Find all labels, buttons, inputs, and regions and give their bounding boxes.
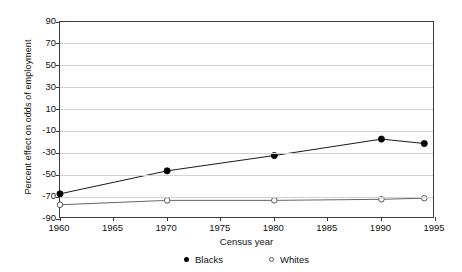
y-tick-mark — [56, 22, 60, 23]
gridline — [60, 153, 433, 154]
x-tick-mark — [60, 217, 61, 221]
data-series-layer — [60, 22, 435, 219]
gridline — [60, 87, 433, 88]
series-line-blacks — [60, 139, 424, 194]
x-tick-label: 1975 — [200, 222, 240, 233]
y-tick-mark — [56, 197, 60, 198]
x-tick-mark — [113, 217, 114, 221]
chart-legend: Blacks Whites — [59, 252, 434, 266]
x-axis-title: Census year — [59, 236, 434, 247]
data-point-blacks — [378, 136, 384, 142]
y-tick-mark — [56, 65, 60, 66]
y-tick-mark — [56, 131, 60, 132]
open-circle-icon — [269, 257, 274, 262]
gridline — [60, 197, 433, 198]
y-tick-label: 50 — [34, 60, 56, 70]
data-point-whites — [271, 198, 277, 204]
y-tick-label: 70 — [34, 38, 56, 48]
x-tick-mark — [435, 217, 436, 221]
x-tick-label: 1995 — [414, 222, 454, 233]
x-tick-label: 1980 — [253, 222, 293, 233]
gridline — [60, 43, 433, 44]
x-axis-tick-labels: 19601965197019751980198519901995 — [59, 222, 434, 236]
series-line-whites — [60, 198, 424, 205]
data-point-whites — [57, 202, 63, 208]
y-tick-mark — [56, 175, 60, 176]
data-point-whites — [164, 198, 170, 204]
chart-figure: Percent effect on odds of employment 907… — [0, 0, 462, 272]
x-tick-label: 1985 — [307, 222, 347, 233]
y-tick-label: -50 — [34, 169, 56, 179]
x-tick-mark — [274, 217, 275, 221]
legend-item-whites: Whites — [269, 254, 309, 265]
y-tick-mark — [56, 153, 60, 154]
filled-circle-icon — [184, 257, 189, 262]
gridline — [60, 131, 433, 132]
legend-item-blacks: Blacks — [184, 254, 223, 265]
gridline — [60, 65, 433, 66]
y-tick-mark — [56, 109, 60, 110]
x-tick-label: 1970 — [146, 222, 186, 233]
x-tick-label: 1990 — [360, 222, 400, 233]
x-tick-mark — [220, 217, 221, 221]
y-tick-label: 10 — [34, 104, 56, 114]
y-tick-label: -10 — [34, 125, 56, 135]
y-tick-mark — [56, 87, 60, 88]
y-tick-label: -30 — [34, 147, 56, 157]
x-tick-mark — [381, 217, 382, 221]
legend-label-blacks: Blacks — [195, 254, 223, 265]
x-tick-mark — [167, 217, 168, 221]
plot-area — [59, 21, 434, 218]
y-tick-mark — [56, 43, 60, 44]
x-tick-mark — [327, 217, 328, 221]
y-tick-label: 90 — [34, 16, 56, 26]
data-point-blacks — [164, 168, 170, 174]
x-tick-label: 1965 — [93, 222, 133, 233]
y-tick-label: 30 — [34, 82, 56, 92]
gridline — [60, 109, 433, 110]
x-tick-label: 1960 — [39, 222, 79, 233]
data-point-blacks — [421, 140, 427, 146]
gridline — [60, 175, 433, 176]
y-tick-label: -70 — [34, 191, 56, 201]
legend-label-whites: Whites — [280, 254, 309, 265]
